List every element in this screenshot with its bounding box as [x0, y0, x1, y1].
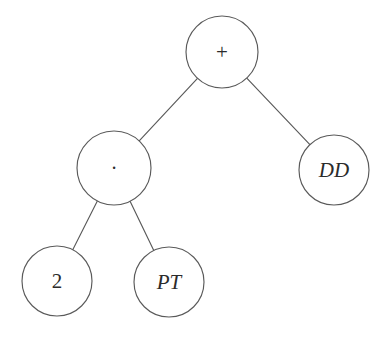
node-label: ·: [111, 157, 118, 179]
node-label: 2: [52, 269, 63, 293]
tree-edge: [247, 78, 310, 145]
tree-node[interactable]: PT: [134, 247, 204, 317]
tree-edge: [139, 78, 197, 141]
node-label: PT: [156, 270, 183, 294]
tree-node[interactable]: DD: [299, 135, 369, 205]
tree-node[interactable]: +: [186, 16, 258, 88]
expression-tree-figure: +·DD2PT: [0, 0, 391, 341]
tree-node[interactable]: 2: [22, 246, 92, 316]
tree-edge: [73, 201, 98, 250]
tree-node[interactable]: ·: [77, 131, 151, 205]
node-label: +: [216, 40, 228, 64]
node-layer: +·DD2PT: [22, 16, 369, 317]
node-label: DD: [318, 158, 349, 182]
expression-tree-canvas: +·DD2PT: [0, 0, 391, 341]
tree-edge: [130, 201, 154, 250]
